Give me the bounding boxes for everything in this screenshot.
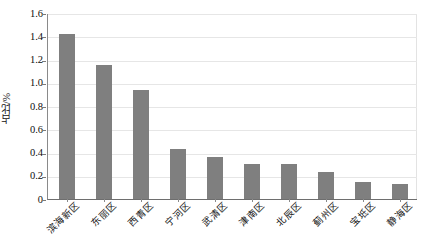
x-axis-category-label: 宝坻区 (348, 200, 376, 228)
bar-chart: 占比/% 00.20.40.60.81.01.21.41.6 滨海新区东丽区西青… (0, 0, 427, 249)
bar (59, 34, 75, 199)
y-axis-tick-mark (42, 107, 46, 108)
bars-layer (48, 14, 417, 199)
bar (355, 182, 371, 199)
x-axis-category-label: 静海区 (385, 200, 413, 228)
bar (392, 184, 408, 199)
x-axis-category-label: 武清区 (200, 200, 228, 228)
x-axis-category-label: 北辰区 (274, 200, 302, 228)
x-axis-category-label: 宁河区 (163, 200, 191, 228)
y-axis-tick-mark (42, 177, 46, 178)
y-axis-tick-mark (42, 200, 46, 201)
y-axis-tick-mark (42, 130, 46, 131)
x-axis-category-label: 西青区 (126, 200, 154, 228)
bar (207, 157, 223, 199)
y-axis-title: 占比/% (1, 78, 15, 138)
y-axis-tick-mark (42, 84, 46, 85)
x-axis-category-label: 东丽区 (89, 200, 117, 228)
y-axis-tick-labels: 00.20.40.60.81.01.21.41.6 (16, 0, 46, 249)
bar (133, 90, 149, 199)
plot-area (47, 14, 417, 200)
x-axis-category-label: 蓟州区 (311, 200, 339, 228)
y-axis-tick-mark (42, 61, 46, 62)
bar (244, 164, 260, 199)
y-axis-tick-mark (42, 14, 46, 15)
bar (96, 65, 112, 199)
bar (170, 149, 186, 199)
bar (281, 164, 297, 199)
x-axis-category-label: 津南区 (237, 200, 265, 228)
bar (318, 172, 334, 199)
y-axis-tick-mark (42, 37, 46, 38)
x-axis-category-label: 滨海新区 (45, 200, 80, 235)
x-axis-category-labels: 滨海新区东丽区西青区宁河区武清区津南区北辰区蓟州区宝坻区静海区 (47, 200, 427, 249)
y-axis-tick-mark (42, 154, 46, 155)
